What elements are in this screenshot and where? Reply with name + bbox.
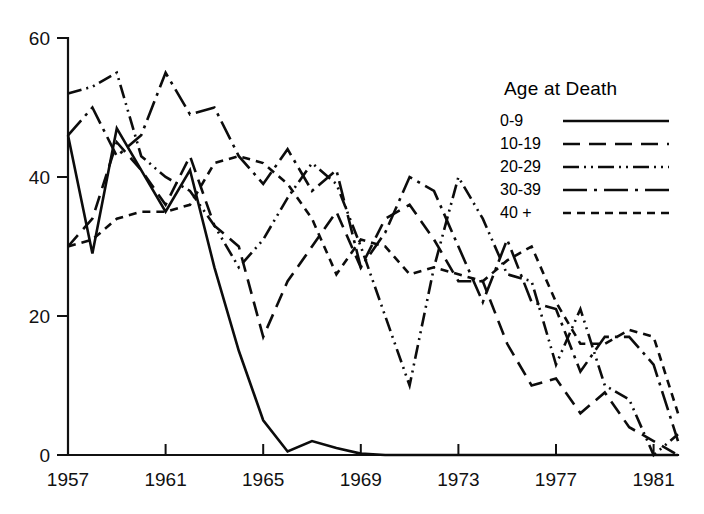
x-tick-label: 1969	[340, 469, 382, 490]
x-tick-label: 1977	[535, 469, 577, 490]
legend-entry: 0-9	[498, 109, 688, 132]
legend-entry: 20-29	[498, 155, 688, 178]
legend-line-swatch	[560, 159, 672, 175]
x-tick-label: 1957	[47, 469, 89, 490]
legend-line-swatch	[560, 205, 672, 221]
legend-entry-label: 30-39	[498, 181, 560, 199]
x-tick-label: 1973	[437, 469, 479, 490]
legend-entry: 30-39	[498, 178, 688, 201]
chart-figure: 02040601957196119651969197319771981 Age …	[0, 0, 704, 514]
legend-entry-label: 20-29	[498, 158, 560, 176]
legend-entry-label: 40 +	[498, 204, 560, 222]
legend-line-swatch	[560, 136, 672, 152]
legend-title: Age at Death	[504, 78, 688, 100]
legend-line-swatch	[560, 182, 672, 198]
chart-legend: Age at Death 0-910-1920-2930-3940 +	[498, 78, 688, 224]
legend-entry-label: 10-19	[498, 135, 560, 153]
y-tick-label: 20	[29, 306, 50, 327]
x-tick-label: 1965	[242, 469, 284, 490]
y-tick-label: 60	[29, 28, 50, 49]
x-tick-label: 1961	[144, 469, 186, 490]
y-tick-label: 0	[39, 445, 50, 466]
legend-entry: 40 +	[498, 201, 688, 224]
y-tick-label: 40	[29, 167, 50, 188]
x-tick-label: 1981	[632, 469, 674, 490]
legend-entry-label: 0-9	[498, 112, 560, 130]
legend-entry: 10-19	[498, 132, 688, 155]
legend-line-swatch	[560, 113, 672, 129]
legend-entry-list: 0-910-1920-2930-3940 +	[498, 109, 688, 224]
